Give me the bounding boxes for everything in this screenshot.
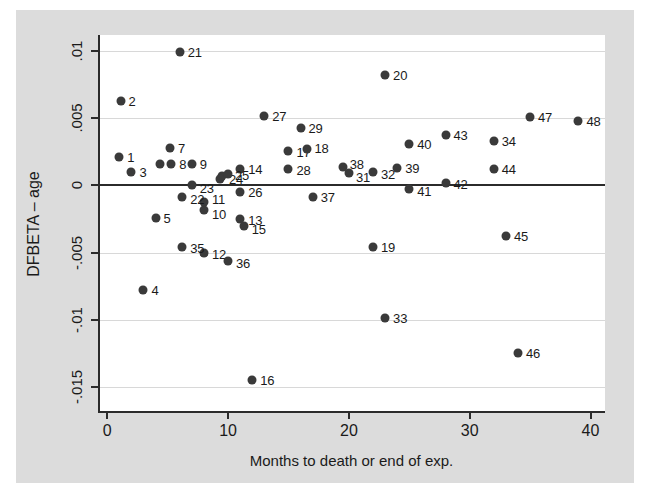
data-point-label: 38 <box>350 157 364 172</box>
data-point <box>187 180 196 189</box>
y-axis-tick-label: .005 <box>76 118 77 119</box>
y-axis-tick <box>91 184 99 186</box>
data-point <box>199 206 208 215</box>
data-point <box>489 164 498 173</box>
data-point <box>308 193 317 202</box>
y-axis-tick-label-text: 0 <box>68 181 85 189</box>
data-point <box>178 192 187 201</box>
y-axis-tick-label: -.01 <box>76 320 77 321</box>
data-point <box>224 169 233 178</box>
data-point <box>215 175 224 184</box>
data-point-label: 33 <box>393 311 407 326</box>
data-point <box>115 152 124 161</box>
data-point <box>296 124 305 133</box>
gridline-y <box>100 253 605 254</box>
data-point <box>514 349 523 358</box>
y-axis-title-text: DFBETA – age <box>25 171 43 277</box>
x-axis-tick <box>469 411 471 419</box>
data-point-label: 48 <box>586 113 600 128</box>
data-point <box>405 184 414 193</box>
data-point-label: 4 <box>151 283 158 298</box>
x-axis-tick <box>590 411 592 419</box>
data-point-label: 1 <box>127 149 134 164</box>
x-axis-tick-label: 40 <box>582 422 600 440</box>
data-point-label: 47 <box>538 109 552 124</box>
data-point-label: 25 <box>235 167 249 182</box>
data-point-label: 18 <box>315 141 329 156</box>
data-point <box>441 131 450 140</box>
data-point-label: 37 <box>321 190 335 205</box>
data-point-label: 23 <box>200 180 214 195</box>
data-point-label: 20 <box>393 67 407 82</box>
y-axis-tick-label: -.015 <box>76 387 77 388</box>
data-point <box>338 163 347 172</box>
y-axis-tick-label-text: -.01 <box>68 307 85 333</box>
scatter-plot-figure: DFBETA – age .01.0050-.005-.01-.01501020… <box>0 0 650 497</box>
data-point-label: 16 <box>260 373 274 388</box>
data-point <box>501 231 510 240</box>
data-point <box>187 159 196 168</box>
y-axis-tick-label: -.005 <box>76 253 77 254</box>
data-point <box>260 112 269 121</box>
data-point-label: 14 <box>248 161 262 176</box>
x-axis-tick <box>106 411 108 419</box>
gridline-y <box>100 320 605 321</box>
x-axis-title: Months to death or end of exp. <box>98 452 605 469</box>
y-axis-tick <box>91 386 99 388</box>
data-point-label: 29 <box>309 121 323 136</box>
data-point <box>381 70 390 79</box>
y-axis-tick-label-text: .005 <box>68 104 85 133</box>
y-axis-tick-label: .01 <box>76 51 77 52</box>
data-point <box>369 243 378 252</box>
data-point <box>381 314 390 323</box>
y-axis-title: DFBETA – age <box>20 35 48 413</box>
data-point-label: 40 <box>417 137 431 152</box>
data-point <box>139 286 148 295</box>
data-point <box>116 96 125 105</box>
data-point <box>302 145 311 154</box>
data-point <box>489 137 498 146</box>
data-point <box>526 112 535 121</box>
plot-region: .01.0050-.005-.01-.015010203040123457891… <box>98 35 605 413</box>
data-point-label: 9 <box>200 156 207 171</box>
data-point-label: 5 <box>164 210 171 225</box>
data-point <box>166 144 175 153</box>
data-point-label: 46 <box>526 346 540 361</box>
data-point-label: 10 <box>212 207 226 222</box>
data-point <box>248 376 257 385</box>
data-point <box>224 256 233 265</box>
data-point-label: 28 <box>296 162 310 177</box>
data-point <box>175 47 184 56</box>
data-point-label: 45 <box>514 228 528 243</box>
data-point <box>405 140 414 149</box>
y-axis-tick <box>91 319 99 321</box>
data-point <box>178 243 187 252</box>
data-point-label: 2 <box>129 93 136 108</box>
data-point-label: 8 <box>179 156 186 171</box>
data-point <box>393 163 402 172</box>
y-axis-tick-label: 0 <box>76 185 77 186</box>
data-point-label: 42 <box>454 176 468 191</box>
x-axis-tick <box>227 411 229 419</box>
y-axis-tick <box>91 252 99 254</box>
data-point <box>151 213 160 222</box>
x-axis-tick-label: 30 <box>461 422 479 440</box>
y-axis-tick-label-text: .01 <box>68 41 85 62</box>
data-point <box>236 187 245 196</box>
x-axis-tick-label: 20 <box>340 422 358 440</box>
y-axis-tick-label-text: -.015 <box>68 370 85 404</box>
x-axis-tick <box>348 411 350 419</box>
data-point-label: 35 <box>190 241 204 256</box>
data-point <box>239 222 248 231</box>
x-axis-tick-label: 0 <box>103 422 112 440</box>
y-axis-tick-label-text: -.005 <box>68 235 85 269</box>
data-point-label: 44 <box>502 161 516 176</box>
y-axis-tick <box>91 117 99 119</box>
data-point-label: 36 <box>236 255 250 270</box>
data-point <box>167 159 176 168</box>
data-point-label: 34 <box>502 134 516 149</box>
data-point-label: 39 <box>405 160 419 175</box>
data-point <box>156 159 165 168</box>
data-point <box>369 167 378 176</box>
data-point-label: 43 <box>454 128 468 143</box>
